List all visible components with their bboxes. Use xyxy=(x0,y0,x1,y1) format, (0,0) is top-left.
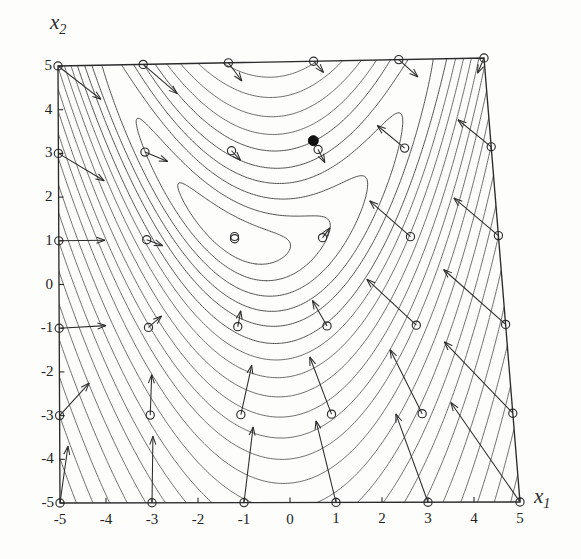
sample-point-marker xyxy=(237,411,245,419)
figure-page: x2 x1 -5-4-3-2-1012345-5-4-3-2-1012345 xyxy=(0,0,581,559)
contour-line xyxy=(478,386,511,502)
sample-point-marker xyxy=(55,237,63,245)
contour-line xyxy=(71,59,456,360)
sample-point-marker xyxy=(516,498,524,506)
sample-point-marker xyxy=(323,322,331,330)
gradient-arrow-head xyxy=(318,154,325,163)
gradient-arrow-shaft xyxy=(244,427,253,503)
minimum-point-marker xyxy=(308,136,318,146)
sample-point-marker xyxy=(234,323,242,331)
x-axis-tick-label: 5 xyxy=(500,510,540,527)
x-axis-tick-label: -5 xyxy=(40,511,80,528)
gradient-arrow-shaft xyxy=(59,326,106,329)
contour-line xyxy=(64,58,463,377)
x-axis-tick-label: -1 xyxy=(224,511,264,528)
sample-point-marker xyxy=(318,234,326,242)
sample-point-marker xyxy=(332,498,340,506)
contour-line xyxy=(424,270,501,502)
gradient-arrow xyxy=(390,350,422,414)
x-axis-tick-label: 3 xyxy=(408,510,448,527)
gradient-arrow-shaft xyxy=(316,421,336,503)
sample-point-marker xyxy=(144,323,152,331)
y-axis-tick-label: 2 xyxy=(19,188,53,205)
contour-line xyxy=(58,58,479,417)
y-axis-tick-label: -2 xyxy=(19,363,53,380)
contour-line xyxy=(59,304,146,503)
contour-line xyxy=(92,65,403,312)
sample-point-marker xyxy=(314,145,322,153)
sample-point-marker xyxy=(406,233,414,241)
gradient-arrow xyxy=(244,427,255,503)
sample-point-marker xyxy=(139,60,147,68)
sample-point-marker xyxy=(141,148,149,156)
x-axis-tick-label: -2 xyxy=(178,511,218,528)
sample-point-marker xyxy=(480,54,488,62)
x-axis-tick-label: -4 xyxy=(86,511,126,528)
y-axis-title-sub: 2 xyxy=(59,21,66,37)
y-axis-tick-label: 0 xyxy=(19,276,53,293)
contour-lines-layer xyxy=(58,58,518,503)
sample-point-marker xyxy=(240,499,248,507)
sample-point-marker xyxy=(424,498,432,506)
y-axis-tick-label: 5 xyxy=(18,57,52,74)
contour-line xyxy=(461,346,508,503)
gradient-arrow xyxy=(444,270,506,325)
y-axis-tick-label: -1 xyxy=(19,319,53,336)
y-axis-tick-label: -3 xyxy=(20,407,54,424)
gradient-arrow-shaft xyxy=(367,279,417,325)
gradient-arrow-shaft xyxy=(59,240,105,241)
sample-point-marker xyxy=(148,499,156,507)
gradient-arrow-head xyxy=(312,300,319,309)
sample-point-marker xyxy=(412,321,420,329)
plot-frame-layer xyxy=(58,58,520,503)
x-axis-tick-label: 1 xyxy=(316,510,356,527)
gradient-arrow xyxy=(59,237,105,243)
gradient-arrow xyxy=(315,421,336,503)
sample-point-marker xyxy=(56,412,64,420)
y-axis-tick-label: 1 xyxy=(19,232,53,249)
sample-point-marker xyxy=(227,147,235,155)
contour-line xyxy=(144,59,409,168)
sample-point-marker xyxy=(395,56,403,64)
contour-line xyxy=(59,185,253,503)
sample-point-marker xyxy=(509,409,517,417)
x-axis-title-sub: 1 xyxy=(543,495,550,511)
contour-line xyxy=(59,340,127,503)
gradient-arrow-shaft xyxy=(152,436,153,503)
sample-point-marker xyxy=(143,236,151,244)
y-axis-tick-label: -4 xyxy=(20,450,54,467)
sample-point-marker xyxy=(224,59,232,67)
sample-point-marker xyxy=(502,320,510,328)
contour-line xyxy=(58,58,471,397)
gradient-arrow-shaft xyxy=(390,350,422,414)
x-axis-title: x1 xyxy=(534,484,550,512)
gradient-arrows-layer xyxy=(58,58,520,503)
gradient-arrow xyxy=(367,279,417,325)
contour-line xyxy=(494,429,514,502)
gradient-arrow-shaft xyxy=(60,383,90,416)
sample-point-marker xyxy=(401,144,409,152)
contour-line xyxy=(58,66,484,438)
sample-point-marker xyxy=(327,410,335,418)
contour-line xyxy=(59,213,212,503)
contour-line xyxy=(59,377,109,503)
contour-line xyxy=(102,65,368,296)
gradient-arrow-shaft xyxy=(60,446,68,503)
x-axis-tick-label: -3 xyxy=(132,511,172,528)
sample-point-marker xyxy=(55,324,63,332)
gradient-arrow-shaft xyxy=(150,375,151,415)
contour-line xyxy=(77,59,446,344)
gradient-arrow-shaft xyxy=(444,270,506,325)
sample-point-marker xyxy=(54,62,62,70)
gradient-arrow xyxy=(60,446,70,503)
x-axis-title-text: x xyxy=(534,484,543,508)
x-axis-tick-label: 0 xyxy=(270,511,310,528)
sample-point-marker xyxy=(418,410,426,418)
gradient-arrow-shaft xyxy=(241,365,252,414)
plot-frame xyxy=(58,58,520,503)
sample-markers-layer xyxy=(54,54,524,507)
sample-point-marker xyxy=(487,143,495,151)
contour-line xyxy=(60,458,77,503)
sample-point-marker xyxy=(56,499,64,507)
sample-point-marker xyxy=(146,411,154,419)
